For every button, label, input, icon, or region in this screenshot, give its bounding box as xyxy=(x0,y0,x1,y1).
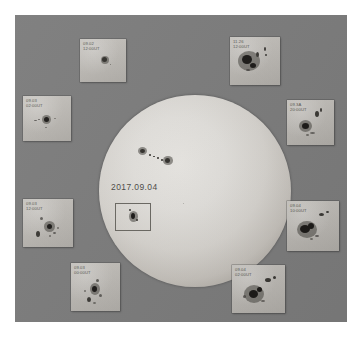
disk-sunspot-penumbra xyxy=(138,147,147,155)
active-region-highlight-box xyxy=(115,203,151,231)
inset-panel-top-left[interactable]: 09.02 12:00UT xyxy=(80,39,126,82)
inset-panel-right-upper[interactable]: 09.3A 20:00UT xyxy=(287,100,334,145)
disk-date-label: 2017.09.04 xyxy=(111,182,158,192)
panel-label-right-upper: 09.3A 20:00UT xyxy=(290,102,307,112)
gray-background-field: 2017.09.04 09.02 12:00UT 11.26 12:00UT xyxy=(15,15,347,322)
disk-sunspot xyxy=(157,157,159,159)
inset-panel-left-upper[interactable]: 09.03 02:00UT xyxy=(23,96,71,141)
inset-panel-right-lower[interactable]: 09.04 10:00UT xyxy=(287,201,339,251)
panel-label-top-right: 11.26 12:00UT xyxy=(233,39,250,49)
inset-panel-top-right[interactable]: 11.26 12:00UT xyxy=(230,37,280,85)
panel-label-top-left: 09.02 12:00UT xyxy=(83,41,100,51)
inset-panel-bottom-right[interactable]: 09.04 02:00UT xyxy=(232,265,285,313)
panel-label-bottom-right: 09.04 02:00UT xyxy=(235,267,252,277)
panel-label-right-lower: 09.04 10:00UT xyxy=(290,203,307,213)
disk-sunspot xyxy=(149,154,151,156)
inset-panel-bottom-left[interactable]: 09.03 00:00UT xyxy=(71,263,120,311)
figure-canvas: 2017.09.04 09.02 12:00UT 11.26 12:00UT xyxy=(0,0,362,337)
inset-panel-left-lower[interactable]: 09.03 12:00UT xyxy=(23,199,73,247)
panel-label-left-lower: 09.03 12:00UT xyxy=(26,201,43,211)
disk-sunspot-penumbra xyxy=(163,156,173,165)
panel-label-bottom-left: 09.03 00:00UT xyxy=(74,265,91,275)
panel-label-left-upper: 09.03 02:00UT xyxy=(26,98,43,108)
